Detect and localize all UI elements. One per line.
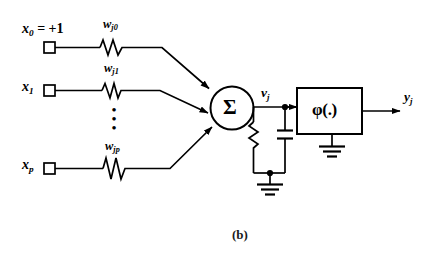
resistor-wjp — [103, 158, 152, 179]
circuit-diagram-svg — [0, 0, 431, 253]
weight-label-wjp: wjp — [105, 140, 120, 153]
summing-junction-symbol: Σ — [223, 97, 237, 118]
input-label-xp: xp — [22, 158, 34, 172]
activation-function-label: φ(.) — [312, 101, 337, 118]
weight-label-wj0: wj0 — [103, 18, 118, 31]
vertical-ellipsis: ••• — [108, 105, 120, 132]
input-terminal-x1 — [44, 85, 55, 96]
output-label-yj: yj — [404, 90, 412, 104]
neuron-circuit-figure: x0 = +1 x1 xp wj0 wj1 wjp ••• Σ vj φ(.) … — [0, 0, 431, 253]
induced-field-label-vj: vj — [261, 86, 269, 100]
input-terminal-x0 — [44, 42, 55, 53]
wire-xp-to-sum — [152, 127, 212, 169]
wire-x1-to-sum — [145, 91, 208, 114]
input-label-x1: x1 — [22, 80, 34, 94]
figure-caption: (b) — [232, 228, 248, 241]
resistor-wj1 — [102, 84, 145, 99]
input-terminal-xp — [44, 163, 55, 174]
input-label-x0: x0 = +1 — [22, 22, 64, 36]
wire-x0-to-sum — [148, 48, 209, 89]
weight-label-wj1: wj1 — [104, 62, 119, 75]
shunt-resistor — [249, 122, 258, 173]
resistor-wj0 — [100, 40, 148, 55]
